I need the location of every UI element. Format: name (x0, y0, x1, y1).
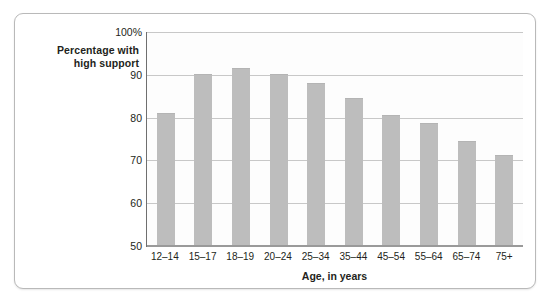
x-axis-tick-label: 15–17 (184, 251, 222, 262)
axis-baseline (147, 245, 523, 247)
bar-slot (373, 33, 411, 245)
bar[interactable] (495, 155, 513, 245)
bar[interactable] (194, 74, 212, 245)
bar-slot (335, 33, 373, 245)
x-axis-title: Age, in years (146, 270, 523, 282)
x-axis-tick-label: 55–64 (410, 251, 448, 262)
bar-slot (485, 33, 523, 245)
plot-area: 100%9080706050 (146, 32, 523, 247)
y-axis-tick-label: 60 (130, 197, 142, 209)
bar-slot (410, 33, 448, 245)
bar-slot (448, 33, 486, 245)
x-axis-tick-label: 65–74 (448, 251, 486, 262)
bar-slot (185, 33, 223, 245)
bar[interactable] (345, 98, 363, 246)
plot-inner: 100%9080706050 (147, 33, 523, 247)
x-axis-tick-label: 25–34 (297, 251, 335, 262)
bar[interactable] (232, 68, 250, 245)
bar-slot (297, 33, 335, 245)
y-axis-tick-label: 70 (130, 154, 142, 166)
bar[interactable] (157, 113, 175, 246)
bar[interactable] (458, 141, 476, 245)
bars-layer (147, 33, 523, 245)
x-axis-tick-label: 45–54 (372, 251, 410, 262)
y-axis-title: Percentage with high support (23, 44, 139, 70)
x-axis-tick-label: 12–14 (146, 251, 184, 262)
x-axis-tick-label: 75+ (485, 251, 523, 262)
y-axis-tick-label: 100% (115, 26, 142, 38)
bar[interactable] (307, 83, 325, 245)
bar-slot (147, 33, 185, 245)
y-axis-title-line-2: high support (23, 57, 139, 70)
y-axis-tick-label: 50 (130, 240, 142, 252)
bar[interactable] (382, 115, 400, 246)
x-axis-tick-labels: 12–1415–1718–1920–2425–3435–4445–5455–64… (146, 251, 523, 262)
x-axis-tick-label: 20–24 (259, 251, 297, 262)
bar[interactable] (270, 74, 288, 245)
bar-slot (222, 33, 260, 245)
y-axis-title-line-1: Percentage with (23, 44, 139, 57)
bar-slot (260, 33, 298, 245)
figure-frame: Percentage with high support 100%9080706… (14, 13, 536, 289)
bar[interactable] (420, 123, 438, 245)
x-axis-tick-label: 35–44 (335, 251, 373, 262)
y-axis-tick-label: 80 (130, 112, 142, 124)
y-axis-tick-label: 90 (130, 69, 142, 81)
x-axis-tick-label: 18–19 (221, 251, 259, 262)
bar-chart: Percentage with high support 100%9080706… (15, 14, 537, 290)
